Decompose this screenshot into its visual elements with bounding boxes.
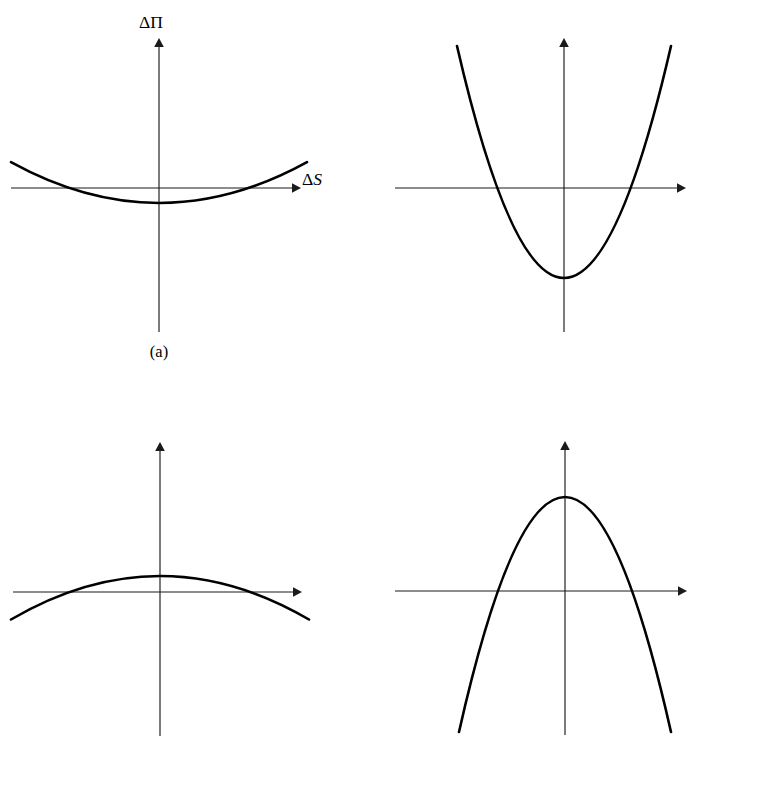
y-axis-arrowhead	[155, 442, 165, 451]
panel-c-plot	[0, 394, 381, 788]
x-axis-symbol: S	[313, 169, 322, 189]
x-axis-arrowhead	[678, 586, 687, 596]
y-axis-delta: Δ	[139, 12, 150, 32]
x-axis-arrowhead	[677, 183, 686, 193]
x-axis-arrowhead	[293, 587, 302, 597]
panel-b: ΔΠ ΔS (b)	[381, 0, 762, 394]
y-axis-arrowhead	[154, 38, 164, 47]
panel-c: ΔΠ ΔS (c)	[0, 394, 381, 788]
figure-root: ΔΠ ΔS (a) ΔΠ ΔS (b) ΔΠ ΔS (c)	[0, 0, 762, 788]
panel-a: ΔΠ ΔS (a)	[0, 0, 381, 394]
x-axis-arrowhead	[292, 183, 301, 193]
panel-a-plot	[0, 0, 381, 394]
y-axis-symbol: Π	[150, 12, 163, 32]
panel-b-plot	[381, 0, 762, 394]
x-axis-delta: Δ	[302, 169, 313, 189]
panel-d: ΔΠ ΔS (d)	[381, 394, 762, 788]
panel-caption-a: (a)	[128, 344, 190, 361]
y-axis-label: ΔΠ	[139, 14, 163, 32]
x-axis-label: ΔS	[302, 171, 322, 189]
panel-d-plot	[381, 394, 762, 788]
y-axis-arrowhead	[559, 38, 569, 47]
y-axis-arrowhead	[560, 441, 570, 450]
